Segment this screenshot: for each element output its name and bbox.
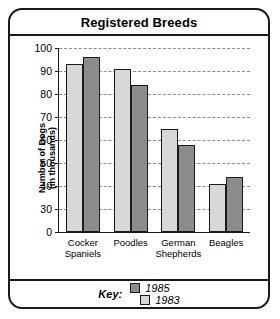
legend-label-1985: 1985: [145, 282, 169, 294]
x-category-label: GermanShepherds: [155, 237, 201, 259]
chart-legend: Key: 19851983: [10, 279, 268, 307]
bar-1983: [66, 64, 83, 232]
legend-swatch-1985: [130, 283, 140, 293]
page-title: Registered Breeds: [81, 15, 198, 30]
plot-frame: 100908070605040300 CockerSpanielsPoodles…: [58, 48, 250, 233]
legend-entry-1983: 1983: [140, 294, 179, 306]
y-tick-label: 60: [40, 134, 52, 146]
bar-1983: [209, 184, 226, 232]
x-category-label: Poodles: [113, 237, 147, 248]
y-tick-label: 80: [40, 88, 52, 100]
y-tick-label: 0: [46, 226, 52, 238]
legend-swatch-1983: [140, 295, 150, 305]
bars-layer: CockerSpanielsPoodlesGermanShepherdsBeag…: [59, 48, 250, 232]
x-category-label-line1: Cocker: [68, 237, 98, 248]
y-tick-mark: [55, 232, 59, 233]
y-tick-label: 100: [34, 42, 52, 54]
x-category-label-line1: Beagles: [209, 237, 243, 248]
bar-1983: [161, 129, 178, 233]
legend-key-label: Key:: [98, 288, 122, 300]
bar-group: GermanShepherds: [155, 48, 203, 232]
y-tick-label: 70: [40, 111, 52, 123]
legend-label-1983: 1983: [155, 294, 179, 306]
bar-group: Poodles: [107, 48, 155, 232]
chart-title-bar: Registered Breeds: [10, 10, 268, 36]
bar-1985: [83, 57, 100, 232]
y-tick-label: 30: [40, 203, 52, 215]
bar-1985: [131, 85, 148, 232]
chart-card: Registered Breeds Number of Dogs (in tho…: [8, 8, 270, 309]
x-category-label-line1: Poodles: [113, 237, 147, 248]
bar-group: CockerSpaniels: [59, 48, 107, 232]
plot-area: Number of Dogs (in thousands) 1009080706…: [10, 36, 268, 279]
bar-group: Beagles: [202, 48, 250, 232]
bar-1985: [178, 145, 195, 232]
x-category-label-line2: Spaniels: [65, 248, 101, 259]
y-tick-label: 40: [40, 180, 52, 192]
x-category-label-line2: Shepherds: [155, 248, 201, 259]
bar-1985: [226, 177, 243, 232]
x-category-label: CockerSpaniels: [65, 237, 101, 259]
y-tick-label: 50: [40, 157, 52, 169]
legend-entries: 19851983: [130, 282, 179, 306]
x-category-label: Beagles: [209, 237, 243, 248]
bar-1983: [114, 69, 131, 232]
y-tick-label: 90: [40, 65, 52, 77]
x-category-label-line1: German: [161, 237, 195, 248]
legend-entry-1985: 1985: [130, 282, 179, 294]
